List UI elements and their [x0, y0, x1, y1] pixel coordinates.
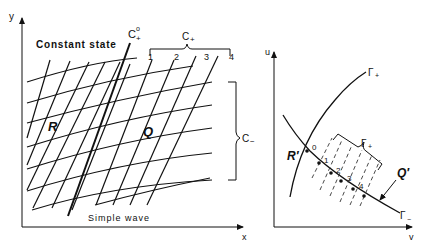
- svg-text:+: +: [375, 72, 379, 79]
- svg-text:−: −: [407, 216, 411, 223]
- c-plus-zero-label: C o +: [128, 25, 141, 43]
- c-plus-number-3: 3: [204, 52, 209, 62]
- c-plus-number-2: 2: [174, 52, 179, 62]
- region-q-label: Q: [143, 124, 153, 139]
- gamma-plus-curve-label: Γ +: [368, 67, 379, 79]
- characteristics-figure: y x Constant state: [0, 0, 429, 251]
- u-axis-label: u: [265, 47, 270, 57]
- v-axis-label: v: [409, 232, 414, 242]
- simple-wave-label: Simple wave: [88, 213, 150, 223]
- region-q-prime-label: Q′: [397, 166, 410, 180]
- right-uv-diagram: u v Γ + Γ −: [265, 47, 414, 242]
- y-axis-label: y: [9, 11, 14, 22]
- svg-text:o: o: [136, 25, 140, 32]
- svg-text:+: +: [190, 35, 195, 44]
- c-plus-bracket: [150, 44, 230, 56]
- region-r-prime-label: R′: [287, 149, 300, 163]
- gamma-plus-curve: [290, 72, 366, 197]
- gamma-plus-group-label: Γ +: [361, 138, 372, 150]
- c-plus-number-4: 4: [229, 52, 234, 62]
- point-3: 3: [347, 174, 352, 183]
- svg-text:Γ: Γ: [368, 67, 374, 78]
- region-r-label: R: [48, 119, 58, 134]
- point-0: 0: [312, 143, 317, 152]
- x-axis-label: x: [242, 232, 247, 242]
- svg-text:Γ: Γ: [361, 138, 367, 149]
- svg-text:+: +: [136, 34, 141, 43]
- q-prime-pointer: [380, 180, 396, 200]
- gamma-minus-curve-label: Γ −: [400, 210, 411, 223]
- c-minus-bracket: [228, 82, 240, 180]
- c-plus-number-1: 1: [148, 52, 153, 62]
- c-plus-group-label: C +: [182, 31, 195, 44]
- svg-text:C: C: [128, 28, 136, 40]
- constant-state-label: Constant state: [36, 39, 117, 50]
- point-1: 1: [324, 156, 329, 165]
- gamma-plus-bracket: [333, 134, 382, 170]
- svg-text:Γ: Γ: [400, 210, 406, 221]
- left-xy-diagram: y x Constant state: [9, 11, 255, 242]
- c-minus-group-label: C −: [242, 133, 255, 146]
- svg-text:+: +: [368, 143, 372, 150]
- point-2: 2: [336, 166, 341, 175]
- svg-text:C: C: [242, 133, 249, 144]
- svg-text:−: −: [250, 137, 255, 146]
- point-4: 4: [359, 182, 364, 191]
- svg-text:C: C: [182, 31, 189, 42]
